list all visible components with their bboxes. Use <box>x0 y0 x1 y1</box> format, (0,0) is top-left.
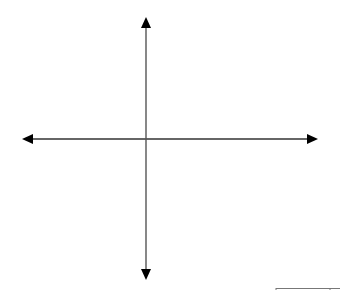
arrow-down-icon <box>141 269 151 280</box>
arrow-right-icon <box>307 134 318 144</box>
y-axis <box>141 17 151 280</box>
coordinate-axes <box>0 0 340 290</box>
arrow-up-icon <box>141 17 151 28</box>
arrow-left-icon <box>22 134 33 144</box>
x-axis <box>22 134 318 144</box>
